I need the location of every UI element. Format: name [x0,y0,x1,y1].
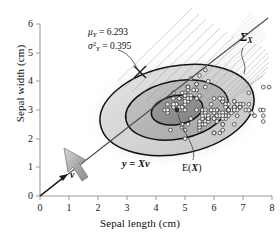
x-tick-1: 1 [67,202,72,213]
eq-y: y [122,158,127,169]
expectation-close: ) [198,162,201,173]
scatter-point [203,85,207,89]
x-axis-ticks [40,196,272,200]
scatter-point [247,108,251,112]
scatter-point [232,100,236,104]
y-axis-title: Sepal width (cm) [15,34,26,134]
scatter-point [247,91,251,95]
figure-container: 0 1 2 3 4 5 6 7 8 0 1 2 3 4 5 6 [0,0,280,240]
covariance-matrix-label: ΣX [240,31,252,45]
scatter-point [166,102,170,106]
v-vector-label: v [70,170,74,180]
scatter-point [232,122,236,126]
y-tick-4: 4 [28,75,33,86]
mean-marker [175,108,180,113]
scatter-point [215,120,219,124]
sigma-annotation-row: σ2Y = 0.395 [88,40,131,54]
eq-equals: = [129,158,138,169]
x-axis-title: Sepal length (cm) [0,218,280,229]
scatter-point [186,85,190,89]
direction-arrow-icon [64,148,88,181]
scatter-point [169,128,173,132]
scatter-point [261,120,265,124]
scatter-plot-canvas: 0 1 2 3 4 5 6 7 8 0 1 2 3 4 5 6 [0,0,280,240]
scatter-point [247,102,251,106]
mu-subscript: Y [93,31,97,38]
scatter-point [261,114,265,118]
eq-X: X [138,158,145,169]
sigma-value: = 0.395 [102,41,131,51]
scatter-point [177,97,181,101]
scatter-point [209,108,213,112]
scatter-point [198,94,202,98]
scatter-point [189,117,193,121]
y-axis-ticks [36,24,40,196]
x-tick-0: 0 [38,202,43,213]
y-tick-1: 1 [28,161,33,172]
scatter-point [203,122,207,126]
scatter-point [261,85,265,89]
scatter-point [195,82,199,86]
y-tick-6: 6 [28,18,33,29]
scatter-point [166,108,170,112]
projection-equation-label: y = Xv [122,159,150,170]
y-tick-0: 0 [28,190,33,201]
expectation-label: E(X) [182,163,201,173]
x-tick-4: 4 [154,202,159,213]
scatter-point [212,131,216,135]
x-tick-3: 3 [125,202,130,213]
scatter-point [221,114,225,118]
v-vector-arrow [40,174,68,196]
y-tick-5: 5 [28,47,33,58]
scatter-point [227,108,231,112]
scatter-point [232,108,236,112]
y-tick-3: 3 [28,104,33,115]
x-tick-8: 8 [270,202,275,213]
x-axis-tick-labels: 0 1 2 3 4 5 6 7 8 [38,202,275,213]
scatter-point [212,97,216,101]
scatter-point [183,137,187,141]
scatter-point [235,114,239,118]
x-tick-6: 6 [212,202,217,213]
scatter-point [183,94,187,98]
scatter-point [261,108,265,112]
scatter-point [183,100,187,104]
scatter-point [172,102,176,106]
scatter-point [206,117,210,121]
y-tick-2: 2 [28,133,33,144]
mu-value: = 6.293 [99,27,128,37]
x-tick-7: 7 [241,202,246,213]
scatter-point [267,85,271,89]
covariance-subscript: X [247,36,252,45]
eq-v: v [145,158,150,169]
scatter-point [209,102,213,106]
mu-annotation-row: μY = 6.293 [88,26,131,40]
y-axis-tick-labels: 0 1 2 3 4 5 6 [28,18,33,201]
scatter-point [218,97,222,101]
scatter-point [221,128,225,132]
x-tick-2: 2 [96,202,101,213]
x-tick-5: 5 [183,202,188,213]
scatter-point [195,108,199,112]
scatter-point [221,122,225,126]
scatter-point [172,97,176,101]
scatter-point [206,79,210,83]
distribution-stats-annotation: μY = 6.293 σ2Y = 0.395 [88,26,131,54]
scatter-point [198,74,202,78]
scatter-point [186,122,190,126]
scatter-point [192,88,196,92]
scatter-point [253,114,257,118]
scatter-point [201,114,205,118]
sigma-subscript: Y [96,45,100,52]
